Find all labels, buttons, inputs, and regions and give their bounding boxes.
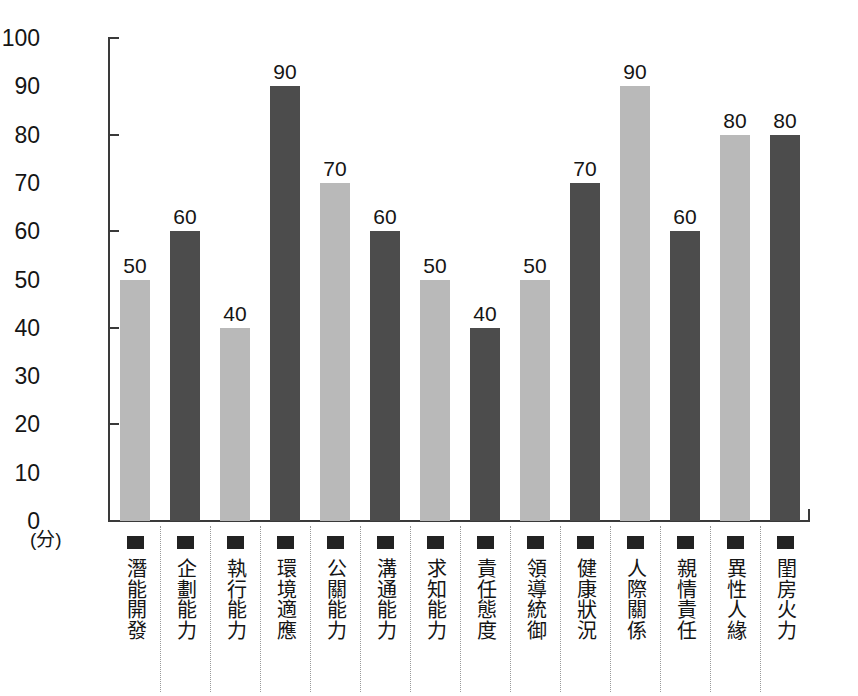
y-axis-tick-label: 80 bbox=[0, 122, 40, 148]
bar-value-label: 80 bbox=[710, 108, 760, 135]
legend-swatch-icon bbox=[477, 536, 494, 549]
category-label-text: 領導統御 bbox=[510, 558, 560, 640]
bar-value-label: 70 bbox=[560, 156, 610, 183]
bar-slot: 50 bbox=[510, 38, 560, 521]
plot-area: 5060409070605040507090608080 bbox=[110, 38, 810, 521]
category-label-text: 溝通能力 bbox=[360, 558, 410, 640]
category-label-text: 執行能力 bbox=[210, 558, 260, 640]
bar-slot: 50 bbox=[110, 38, 160, 521]
bar: 80 bbox=[720, 135, 750, 521]
legend-swatch-icon bbox=[777, 536, 794, 549]
bar-value-label: 70 bbox=[310, 156, 360, 183]
bar-value-label: 50 bbox=[110, 253, 160, 280]
category-label-cell: 潛能開發 bbox=[110, 522, 160, 696]
bar-value-label: 40 bbox=[210, 301, 260, 328]
bar-slot: 70 bbox=[560, 38, 610, 521]
y-axis-tick-label: 50 bbox=[0, 267, 40, 293]
legend-swatch-icon bbox=[177, 536, 194, 549]
bar-slot: 70 bbox=[310, 38, 360, 521]
bar-value-label: 50 bbox=[410, 253, 460, 280]
bar-chart: 1009080706050403020100 (分) 5060409070605… bbox=[0, 0, 858, 696]
category-label-text: 企劃能力 bbox=[160, 558, 210, 640]
category-label-text: 公關能力 bbox=[310, 558, 360, 640]
bar: 40 bbox=[220, 328, 250, 521]
bar-value-label: 80 bbox=[760, 108, 810, 135]
legend-swatch-icon bbox=[327, 536, 344, 549]
bar-slot: 60 bbox=[160, 38, 210, 521]
bar-slot: 40 bbox=[460, 38, 510, 521]
category-label-cell: 健康狀況 bbox=[560, 522, 610, 696]
bar-slot: 60 bbox=[660, 38, 710, 521]
bar: 80 bbox=[770, 135, 800, 521]
bar: 60 bbox=[170, 231, 200, 521]
category-label-text: 親情責任 bbox=[660, 558, 710, 640]
bar: 90 bbox=[270, 86, 300, 521]
legend-swatch-icon bbox=[277, 536, 294, 549]
category-label-cell: 溝通能力 bbox=[360, 522, 410, 696]
y-axis-tick-label: 10 bbox=[0, 460, 40, 486]
y-axis-unit-label: (分) bbox=[30, 528, 62, 552]
category-label-text: 責任態度 bbox=[460, 558, 510, 640]
y-axis-tick-label: 100 bbox=[0, 25, 40, 51]
category-label-cell: 公關能力 bbox=[310, 522, 360, 696]
bar-value-label: 60 bbox=[360, 204, 410, 231]
category-label-cell: 人際關係 bbox=[610, 522, 660, 696]
category-label-text: 人際關係 bbox=[610, 558, 660, 640]
legend-swatch-icon bbox=[427, 536, 444, 549]
legend-swatch-icon bbox=[677, 536, 694, 549]
bar-slot: 80 bbox=[710, 38, 760, 521]
category-label-text: 求知能力 bbox=[410, 558, 460, 640]
category-label-cell: 求知能力 bbox=[410, 522, 460, 696]
legend-swatch-icon bbox=[227, 536, 244, 549]
category-label-cell: 企劃能力 bbox=[160, 522, 210, 696]
bar: 60 bbox=[670, 231, 700, 521]
bar: 40 bbox=[470, 328, 500, 521]
legend-swatch-icon bbox=[727, 536, 744, 549]
category-label-text: 健康狀況 bbox=[560, 558, 610, 640]
category-label-text: 環境適應 bbox=[260, 558, 310, 640]
bar-slot: 90 bbox=[260, 38, 310, 521]
y-axis-tick-label: 70 bbox=[0, 170, 40, 196]
bar: 70 bbox=[320, 183, 350, 521]
bar-slot: 80 bbox=[760, 38, 810, 521]
category-label-text: 異性人緣 bbox=[710, 558, 760, 640]
legend-swatch-icon bbox=[377, 536, 394, 549]
bar-slot: 50 bbox=[410, 38, 460, 521]
category-label-text: 潛能開發 bbox=[110, 558, 160, 640]
bar: 50 bbox=[520, 280, 550, 522]
category-label-cell: 執行能力 bbox=[210, 522, 260, 696]
category-label-cell: 閨房火力 bbox=[760, 522, 810, 696]
legend-swatch-icon bbox=[577, 536, 594, 549]
bar-slot: 40 bbox=[210, 38, 260, 521]
y-axis-tick-label: 40 bbox=[0, 315, 40, 341]
category-label-cell: 責任態度 bbox=[460, 522, 510, 696]
y-axis-tick-label: 60 bbox=[0, 218, 40, 244]
bar-value-label: 40 bbox=[460, 301, 510, 328]
category-label-cell: 環境適應 bbox=[260, 522, 310, 696]
bar-value-label: 50 bbox=[510, 253, 560, 280]
y-axis-tick-label: 20 bbox=[0, 411, 40, 437]
bar: 70 bbox=[570, 183, 600, 521]
category-labels-strip: 潛能開發企劃能力執行能力環境適應公關能力溝通能力求知能力責任態度領導統御健康狀況… bbox=[110, 522, 810, 696]
legend-swatch-icon bbox=[127, 536, 144, 549]
bar: 90 bbox=[620, 86, 650, 521]
legend-swatch-icon bbox=[527, 536, 544, 549]
category-label-text: 閨房火力 bbox=[760, 558, 810, 640]
y-axis-tick-label: 90 bbox=[0, 73, 40, 99]
bar-slot: 60 bbox=[360, 38, 410, 521]
bar-slot: 90 bbox=[610, 38, 660, 521]
bar: 50 bbox=[120, 280, 150, 522]
bar-value-label: 90 bbox=[610, 59, 660, 86]
bar: 60 bbox=[370, 231, 400, 521]
legend-swatch-icon bbox=[627, 536, 644, 549]
bar-value-label: 60 bbox=[660, 204, 710, 231]
bar: 50 bbox=[420, 280, 450, 522]
category-label-cell: 異性人緣 bbox=[710, 522, 760, 696]
category-label-cell: 親情責任 bbox=[660, 522, 710, 696]
bar-value-label: 90 bbox=[260, 59, 310, 86]
bar-value-label: 60 bbox=[160, 204, 210, 231]
y-axis-tick-label: 30 bbox=[0, 363, 40, 389]
category-label-cell: 領導統御 bbox=[510, 522, 560, 696]
